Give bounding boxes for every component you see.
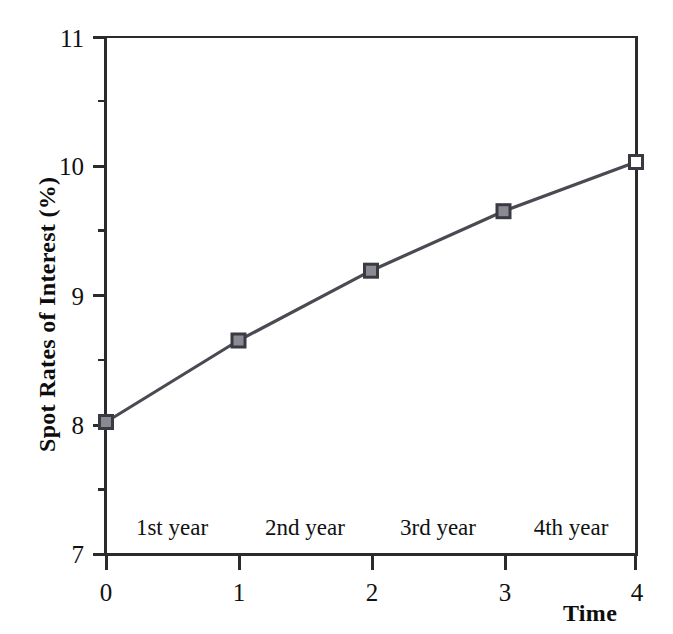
axis-frame (105, 36, 638, 556)
y-axis-title: Spot Rates of Interest (%) (34, 177, 61, 452)
x-tick-label-2: 2 (366, 580, 379, 605)
x-major-ticks (107, 555, 636, 570)
data-line (106, 162, 636, 422)
y-major-ticks (93, 38, 105, 555)
x-tick-label-3: 3 (499, 580, 512, 605)
x-tick-label-4: 4 (631, 580, 644, 605)
span-label-4th-year: 4th year (534, 516, 609, 539)
data-markers (100, 156, 643, 429)
span-label-3rd-year: 3rd year (400, 516, 476, 539)
line-chart: 11 10 9 8 7 0 1 2 3 4 1st year 2nd year … (0, 0, 673, 634)
span-label-1st-year: 1st year (136, 516, 208, 539)
data-point-marker (497, 205, 510, 218)
x-tick-label-0: 0 (100, 580, 113, 605)
data-point-marker (365, 264, 378, 277)
data-point-marker (100, 416, 113, 429)
y-tick-label-11: 11 (56, 26, 84, 51)
data-point-marker (232, 334, 245, 347)
x-tick-label-1: 1 (233, 580, 246, 605)
y-tick-label-7: 7 (56, 542, 84, 567)
span-label-2nd-year: 2nd year (265, 516, 345, 539)
y-tick-label-10: 10 (56, 154, 84, 179)
data-point-marker (630, 156, 643, 169)
x-axis-title: Time (563, 600, 617, 627)
